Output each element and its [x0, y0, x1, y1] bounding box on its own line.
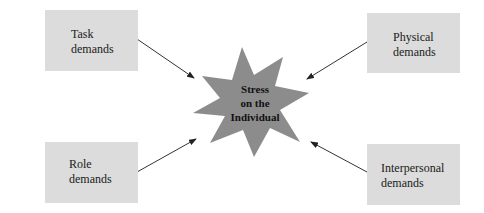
physical-demands-label: Physical demands: [393, 30, 436, 60]
role-demands-box: Role demands: [45, 142, 138, 203]
arrow-role-to-stress: [137, 139, 196, 172]
role-demands-label: Role demands: [69, 157, 112, 187]
task-demands-box: Task demands: [45, 10, 138, 71]
arrow-physical-to-stress: [307, 42, 367, 79]
stress-on-individual-label: Stress on the Individual: [210, 82, 300, 124]
arrow-interpersonal-to-stress: [311, 142, 367, 172]
interpersonal-demands-box: Interpersonal demands: [367, 144, 460, 205]
arrow-task-to-stress: [137, 39, 194, 78]
interpersonal-demands-label: Interpersonal demands: [381, 161, 444, 191]
task-demands-label: Task demands: [71, 27, 114, 57]
physical-demands-box: Physical demands: [367, 13, 460, 73]
